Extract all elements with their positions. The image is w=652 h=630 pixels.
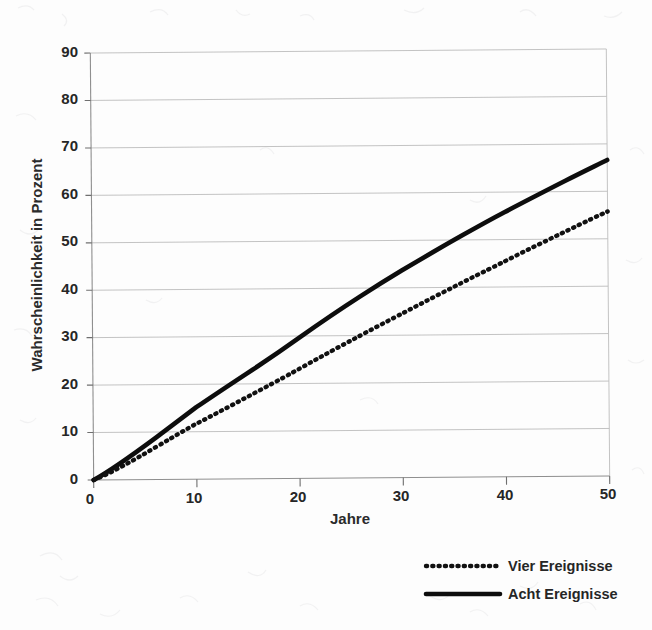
x-axis-line [94,476,610,480]
x-tick-labels: 0 10 20 30 40 50 [86,485,617,507]
y-tick-label: 90 [61,43,78,60]
x-tick-label: 40 [497,486,514,503]
x-tick-label: 20 [290,488,307,505]
probability-line-chart: 90 80 70 60 50 40 30 20 10 0 0 10 20 30 … [0,0,652,630]
y-tick-label: 40 [61,280,78,297]
y-tick-labels: 90 80 70 60 50 40 30 20 10 0 [61,43,78,487]
y-tick-label: 20 [61,375,78,392]
y-tick-label: 10 [61,422,78,439]
y-tick-label: 30 [61,327,78,344]
y-tick-label: 50 [61,232,78,249]
x-tick-label: 30 [393,487,410,504]
y-tick-label: 80 [61,90,78,107]
x-axis-title: Jahre [330,510,370,527]
x-tick-label: 0 [86,490,94,507]
y-axis-title: Wahrscheinlichkeit in Prozent [28,159,45,372]
series-line-vier-ereignisse [92,211,610,480]
y-axis-line [90,53,93,480]
chart-legend: Vier Ereignisse Acht Ereignisse [426,558,618,602]
legend-label-vier-ereignisse: Vier Ereignisse [508,558,613,574]
y-tick-label: 70 [61,137,78,154]
x-tick-label: 50 [600,485,617,502]
y-tick-label: 60 [61,185,78,202]
plot-right-border [606,49,609,476]
gridlines [90,49,609,433]
y-tick-label: 0 [70,470,78,487]
x-tick-label: 10 [186,489,203,506]
chart-page: 90 80 70 60 50 40 30 20 10 0 0 10 20 30 … [0,0,652,630]
legend-label-acht-ereignisse: Acht Ereignisse [508,586,618,602]
